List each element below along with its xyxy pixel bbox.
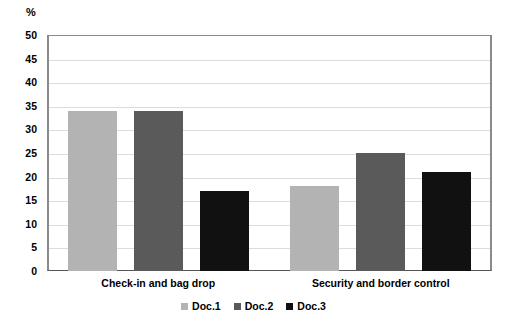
y-axis-tick-label: 15: [25, 194, 37, 206]
x-axis-category-label: Check-in and bag drop: [101, 277, 215, 289]
legend-swatch-icon: [181, 303, 188, 310]
gridline: [49, 154, 490, 155]
y-axis-tick-label: 10: [25, 218, 37, 230]
gridlines: [49, 36, 490, 270]
x-axis-category-labels: Check-in and bag dropSecurity and border…: [47, 277, 492, 293]
legend-item: Doc.2: [234, 300, 274, 312]
chart-legend: Doc.1Doc.2Doc.3: [0, 300, 507, 312]
legend-label: Doc.1: [192, 300, 221, 312]
y-axis-tick-label: 25: [25, 147, 37, 159]
legend-label: Doc.3: [297, 300, 326, 312]
gridline: [49, 225, 490, 226]
gridline: [49, 178, 490, 179]
legend-label: Doc.2: [245, 300, 274, 312]
gridline: [49, 107, 490, 108]
bar-chart: % 05101520253035404550 Check-in and bag …: [0, 0, 507, 321]
gridline: [49, 83, 490, 84]
y-axis-tick-label: 50: [25, 29, 37, 41]
y-axis-tick-label: 20: [25, 171, 37, 183]
gridline: [49, 60, 490, 61]
gridline: [49, 201, 490, 202]
y-axis-tick-label: 30: [25, 123, 37, 135]
y-axis-tick-label: 0: [31, 265, 37, 277]
legend-swatch-icon: [234, 303, 241, 310]
legend-item: Doc.3: [286, 300, 326, 312]
y-axis-unit-label: %: [26, 6, 36, 18]
gridline: [49, 130, 490, 131]
x-axis-category-label: Security and border control: [312, 277, 450, 289]
y-axis-tick-labels: 05101520253035404550: [0, 35, 42, 271]
legend-swatch-icon: [286, 303, 293, 310]
y-axis-tick-label: 45: [25, 53, 37, 65]
y-axis-tick-label: 35: [25, 100, 37, 112]
legend-item: Doc.1: [181, 300, 221, 312]
y-axis-tick-label: 5: [31, 241, 37, 253]
y-axis-tick-label: 40: [25, 76, 37, 88]
plot-area: [47, 35, 492, 271]
gridline: [49, 248, 490, 249]
